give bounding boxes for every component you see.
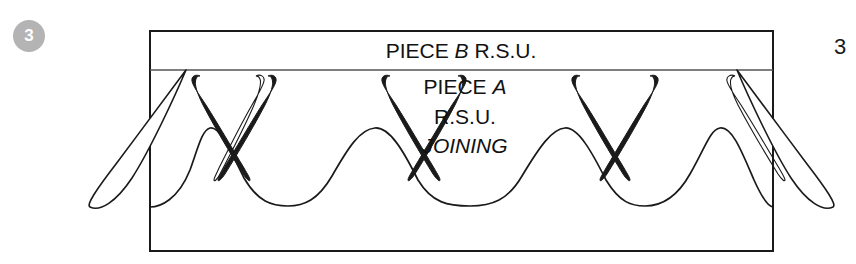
piece-a-label-emphasis: A	[490, 75, 506, 98]
piece-a-label-line2: R.S.U.	[434, 105, 496, 128]
piece-a-label-line1: PIECE A	[424, 75, 507, 98]
piece-b-label: PIECE B R.S.U.	[386, 39, 537, 62]
piece-b-label-prefix: PIECE	[386, 39, 455, 62]
piece-a-label-line3: JOINING	[421, 134, 507, 157]
figure-root: 3 3 PIECE B R.S.U. PIECE	[0, 0, 856, 264]
piece-b-label-emphasis: B	[455, 39, 469, 62]
piece-a-label-prefix: PIECE	[424, 75, 493, 98]
piece-b-label-suffix: R.S.U.	[469, 39, 537, 62]
rsu-joining-diagram: PIECE B R.S.U. PIECE A R.S.U. JOINING	[0, 0, 856, 264]
